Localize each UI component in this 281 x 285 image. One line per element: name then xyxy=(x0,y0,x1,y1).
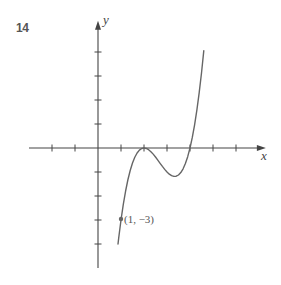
x-axis-label: x xyxy=(260,148,267,163)
y-axis-arrow-icon xyxy=(95,21,101,30)
point-annotation: (1, −3) xyxy=(119,213,155,226)
point-marker-icon xyxy=(119,217,123,221)
figure: 14 x y (1, −3) xyxy=(0,0,281,285)
graph: x y (1, −3) xyxy=(0,0,281,285)
x-axis: x xyxy=(29,145,267,164)
point-label: (1, −3) xyxy=(124,213,154,226)
y-axis-label: y xyxy=(101,12,109,27)
y-axis: y xyxy=(95,12,110,268)
